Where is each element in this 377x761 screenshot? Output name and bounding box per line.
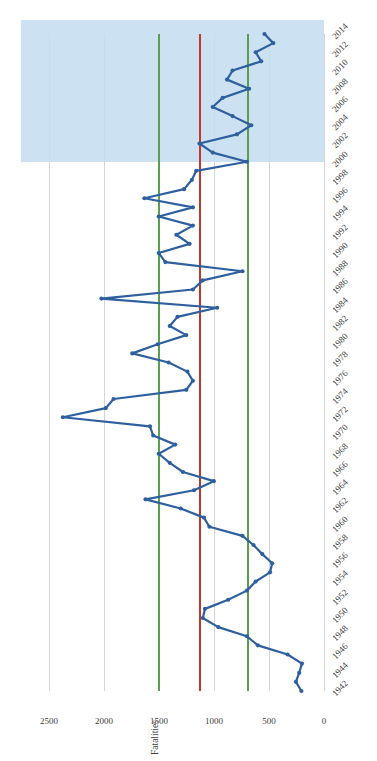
data-point [201,616,205,620]
year-tick-1976: 1976 [330,368,350,388]
data-point [191,205,195,209]
data-point [99,297,103,301]
data-point [148,424,152,428]
data-point [167,360,171,364]
year-tick-2008: 2008 [330,76,350,96]
data-point [211,105,215,109]
year-tick-1970: 1970 [330,423,350,443]
data-point [215,306,219,310]
year-tick-1942: 1942 [330,678,350,698]
year-tick-1980: 1980 [330,332,350,352]
year-tick-2000: 2000 [330,149,350,169]
data-point [194,169,198,173]
data-point [230,68,234,72]
data-point [168,461,172,465]
year-tick-1948: 1948 [330,624,350,644]
data-point [235,132,239,136]
data-point [174,233,178,237]
value-tick-500: 500 [262,716,276,726]
data-point [173,443,177,447]
data-point [268,570,272,574]
data-point [262,32,266,36]
data-point [181,470,185,474]
data-point [251,543,255,547]
data-point [187,242,191,246]
year-tick-1986: 1986 [330,277,350,297]
chart-canvas: Fatalities 05001000150020002500 19421944… [0,0,377,761]
data-point [192,488,196,492]
data-point [104,406,108,410]
data-point [256,643,260,647]
data-point [216,625,220,629]
data-point [61,415,65,419]
data-point [212,479,216,483]
year-tick-1992: 1992 [330,222,350,242]
data-point [245,634,249,638]
data-point [245,589,249,593]
year-tick-1996: 1996 [330,186,350,206]
data-point [259,59,263,63]
year-tick-1968: 1968 [330,441,350,461]
gridline-value-0 [324,34,325,691]
data-point [294,680,298,684]
year-tick-1950: 1950 [330,605,350,625]
data-point [142,196,146,200]
year-tick-1956: 1956 [330,551,350,571]
data-point [247,87,251,91]
value-tick-2500: 2500 [40,716,58,726]
data-point [271,41,275,45]
year-tick-1964: 1964 [330,478,350,498]
year-tick-2006: 2006 [330,94,350,114]
year-tick-1994: 1994 [330,204,350,224]
year-tick-1944: 1944 [330,660,350,680]
data-point [299,689,303,693]
data-point [151,433,155,437]
value-tick-1000: 1000 [205,716,223,726]
data-point [182,187,186,191]
year-tick-2004: 2004 [330,113,350,133]
data-point [157,214,161,218]
value-tick-2000: 2000 [95,716,113,726]
year-tick-1984: 1984 [330,295,350,315]
series-line [63,34,302,691]
data-point [202,516,206,520]
data-point [175,315,179,319]
year-tick-1946: 1946 [330,642,350,662]
data-point [230,114,234,118]
year-tick-1972: 1972 [330,405,350,425]
plot-area [21,34,324,691]
year-tick-1998: 1998 [330,167,350,187]
data-point [211,151,215,155]
year-tick-2012: 2012 [330,40,350,60]
year-tick-1952: 1952 [330,587,350,607]
year-tick-1988: 1988 [330,259,350,279]
data-point [185,370,189,374]
year-tick-1982: 1982 [330,313,350,333]
data-point [163,260,167,264]
data-point [221,96,225,100]
data-point [156,342,160,346]
fatalities-line-series [21,34,324,691]
year-tick-1978: 1978 [330,350,350,370]
data-point [179,506,183,510]
year-tick-1954: 1954 [330,569,350,589]
data-point [191,224,195,228]
data-point [240,269,244,273]
year-tick-1974: 1974 [330,386,350,406]
year-tick-1962: 1962 [330,496,350,516]
data-point [297,671,301,675]
data-point [143,497,147,501]
data-point [197,141,201,145]
year-tick-1990: 1990 [330,240,350,260]
data-point [249,123,253,127]
value-tick-0: 0 [322,716,327,726]
year-tick-2002: 2002 [330,131,350,151]
data-point [111,397,115,401]
data-point [168,324,172,328]
data-point [157,452,161,456]
data-point [254,579,258,583]
data-point [184,333,188,337]
year-tick-1966: 1966 [330,459,350,479]
data-point [191,379,195,383]
data-point [184,388,188,392]
